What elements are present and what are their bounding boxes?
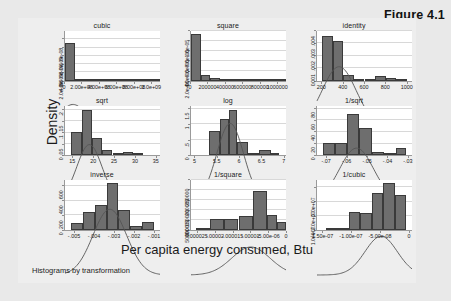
plot-area (64, 31, 160, 82)
x-tick-label: 7 (282, 158, 285, 164)
x-tick-label: -.06 (342, 158, 351, 164)
x-tick-label: -.000015 (222, 233, 243, 239)
x-tick-label: 800 (381, 84, 390, 90)
x-axis-ticks: 1520253035 (64, 156, 160, 169)
x-tick-label: -.004 (88, 233, 100, 239)
x-tick-label: 1.0e+09 (141, 84, 161, 90)
x-tick-label: 400 (338, 84, 347, 90)
panel-grid: cubic02.0e-094.0e-096.0e-098.0e-091.0e-0… (42, 22, 414, 244)
x-tick-label: -.04 (383, 158, 392, 164)
panel-identity: identity0.001.002.003.004200400600800100… (294, 22, 414, 95)
x-tick-label: -.002 (128, 233, 140, 239)
x-tick-label: 1000000 (267, 84, 288, 90)
plot-box (190, 31, 286, 82)
plot-area (190, 106, 286, 157)
y-axis-ticks: 01.0e+072.0e+073.0e+07 (294, 180, 316, 231)
x-axis-title: Per capita energy consumed, Btu (18, 242, 416, 257)
plot-area (190, 180, 286, 231)
normal-density-curve (191, 180, 286, 275)
x-axis-ticks: -.07-.06-.05-.04-.03 (316, 156, 412, 169)
plot-area (316, 106, 412, 157)
panel-1-sqrt: 1/sqrt020406080-.07-.06-.05-.04-.03 (294, 97, 414, 170)
panel-log: log0.511.555.566.57 (168, 97, 288, 170)
y-axis-ticks: 0.05.1.15.2 (42, 106, 64, 157)
panel-sqrt: sqrt0.05.1.15.21520253035 (42, 97, 162, 170)
x-axis-ticks: 2004006008001000 (316, 82, 412, 95)
panel-title: square (168, 22, 288, 29)
y-axis-ticks: 02.0e-064.0e-066.0e-068.0e-061.0e-05 (168, 31, 190, 82)
x-tick-label: -.005 (68, 233, 80, 239)
panel-title: 1/square (168, 171, 288, 178)
x-axis-ticks: 02.00e+084.00e+086.00e+088.00e+081.0e+09 (64, 82, 160, 95)
plot-box (64, 180, 160, 231)
panel-inverse: inverse0200400600-.005-.004-.003-.002-.0… (42, 171, 162, 244)
x-tick-label: 6.5 (258, 158, 266, 164)
x-tick-label: 6 (238, 158, 241, 164)
graph-note: Histograms by transformation (32, 266, 130, 275)
panel-title: identity (294, 22, 414, 29)
panel-1-cubic: 1/cubic01.0e+072.0e+073.0e+07-1.50e-07-1… (294, 171, 414, 244)
figure-page: Figure 4.1 Density cubic02.0e-094.0e-096… (0, 0, 451, 301)
x-tick-label: -.07 (322, 158, 331, 164)
x-tick-label: 600 (360, 84, 369, 90)
x-tick-label: 0 (285, 233, 288, 239)
x-tick-label: -.000025 (186, 233, 207, 239)
y-axis-ticks: 020406080 (294, 106, 316, 157)
panel-square: square02.0e-064.0e-066.0e-068.0e-061.0e-… (168, 22, 288, 95)
panel-title: 1/cubic (294, 171, 414, 178)
plot-box (64, 31, 160, 82)
plot-box (190, 106, 286, 157)
panel-title: inverse (42, 171, 162, 178)
panel-1-square: 1/square050000100000150000200000250000-.… (168, 171, 288, 244)
x-tick-label: 0 (408, 233, 411, 239)
y-axis-ticks: 0200400600 (42, 180, 64, 231)
x-tick-label: 400000 (216, 84, 234, 90)
x-tick-label: 0 (189, 84, 192, 90)
x-tick-label: 0 (63, 84, 66, 90)
normal-density-curve (317, 180, 412, 275)
plot-area (316, 31, 412, 82)
plot-box (190, 180, 286, 231)
plot-area (316, 180, 412, 231)
panel-title: 1/sqrt (294, 97, 414, 104)
x-tick-label: 600000 (233, 84, 251, 90)
x-tick-label: -5.00e-08 (368, 233, 391, 239)
x-tick-label: -1.00e-07 (339, 233, 362, 239)
panel-cubic: cubic02.0e-094.0e-096.0e-098.0e-091.0e-0… (42, 22, 162, 95)
plot-area (190, 31, 286, 82)
x-tick-label: -.05 (362, 158, 371, 164)
y-axis-ticks: 0.001.002.003.004 (294, 31, 316, 82)
stata-graph: Density cubic02.0e-094.0e-096.0e-098.0e-… (18, 18, 416, 283)
y-axis-ticks: 02.0e-094.0e-096.0e-098.0e-091.0e-08 (42, 31, 64, 82)
x-tick-label: -.003 (108, 233, 120, 239)
x-tick-label: -.001 (148, 233, 160, 239)
y-axis-ticks: 050000100000150000200000250000 (168, 180, 190, 231)
x-tick-label: 25 (111, 158, 117, 164)
plot-box (316, 180, 412, 231)
panel-title: cubic (42, 22, 162, 29)
x-tick-label: -.03 (403, 158, 412, 164)
x-tick-label: 5.5 (213, 158, 221, 164)
x-tick-label: 200000 (198, 84, 216, 90)
y-axis-ticks: 0.511.5 (168, 106, 190, 157)
plot-area (64, 180, 160, 231)
x-tick-label: 1000 (401, 84, 413, 90)
x-tick-label: -5.00e-06 (257, 233, 280, 239)
x-tick-label: 15 (69, 158, 75, 164)
x-axis-ticks: 02000004000006000008000001000000 (190, 82, 286, 95)
x-tick-label: -1.50e-07 (310, 233, 333, 239)
x-tick-label: 35 (153, 158, 159, 164)
plot-area (64, 106, 160, 157)
x-tick-label: 200 (317, 84, 326, 90)
plot-box (316, 31, 412, 82)
plot-box (316, 106, 412, 157)
x-axis-ticks: 55.566.57 (190, 156, 286, 169)
x-tick-label: 20 (90, 158, 96, 164)
plot-box (64, 106, 160, 157)
x-tick-label: 5 (193, 158, 196, 164)
normal-density-curve (65, 180, 160, 275)
panel-title: log (168, 97, 288, 104)
x-tick-label: 30 (132, 158, 138, 164)
panel-title: sqrt (42, 97, 162, 104)
